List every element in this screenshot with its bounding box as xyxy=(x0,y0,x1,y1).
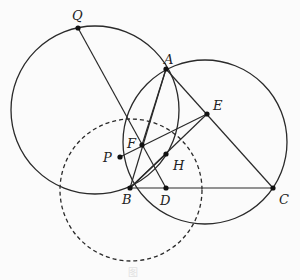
segment-AF xyxy=(142,69,166,145)
segment-QD xyxy=(78,28,166,188)
label-H: H xyxy=(172,158,185,173)
point-P xyxy=(117,154,122,159)
label-F: F xyxy=(126,136,137,151)
point-F xyxy=(139,142,144,147)
point-H xyxy=(163,151,168,156)
point-C xyxy=(270,185,275,190)
geometry-diagram: QAEFPHBDC 图 xyxy=(0,0,300,280)
label-A: A xyxy=(163,52,173,67)
point-Q xyxy=(75,25,80,30)
geometry-figure: QAEFPHBDC 图 xyxy=(0,0,300,280)
circle-abc xyxy=(123,60,287,224)
label-C: C xyxy=(279,192,289,207)
point-A xyxy=(163,66,168,71)
figure-caption: 图 xyxy=(128,267,138,278)
point-B xyxy=(127,185,132,190)
label-E: E xyxy=(212,98,223,113)
label-Q: Q xyxy=(72,8,83,23)
label-P: P xyxy=(102,150,112,165)
label-B: B xyxy=(121,192,132,207)
label-D: D xyxy=(159,193,171,208)
point-E xyxy=(204,111,209,116)
point-D xyxy=(163,185,168,190)
